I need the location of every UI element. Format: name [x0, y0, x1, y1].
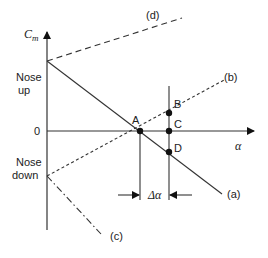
zero-label: 0 — [34, 125, 40, 137]
point-c-label: C — [174, 118, 182, 130]
point-d-label: D — [174, 142, 182, 154]
curve-c — [47, 176, 101, 234]
point-b — [166, 110, 172, 116]
curve-b-label: (b) — [224, 71, 237, 83]
delta-alpha-label: Δα — [147, 188, 162, 202]
point-c — [166, 128, 172, 134]
alpha-axis-label: α — [235, 139, 242, 153]
point-d — [166, 149, 172, 155]
curve-d — [47, 18, 182, 61]
point-a — [137, 128, 143, 134]
curve-c-label: (c) — [110, 230, 123, 242]
pitching-moment-diagram: Cm α 0 Nose up Nose down A B C D Δα (a) … — [0, 0, 268, 258]
curve-b — [47, 79, 226, 176]
nose-up-label-2: up — [18, 84, 30, 96]
point-b-label: B — [174, 98, 181, 110]
nose-down-label-2: down — [12, 169, 38, 181]
point-a-label: A — [132, 114, 140, 126]
nose-down-label-1: Nose — [16, 156, 42, 168]
curve-a — [47, 61, 222, 194]
curve-a-label: (a) — [227, 188, 240, 200]
nose-up-label-1: Nose — [16, 71, 42, 83]
cm-axis-label: Cm — [24, 27, 39, 43]
curve-d-label: (d) — [146, 9, 159, 21]
